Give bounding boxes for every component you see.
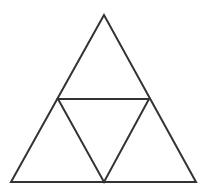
inner-triangle [58,99,149,182]
triangle-diagram [0,0,204,193]
